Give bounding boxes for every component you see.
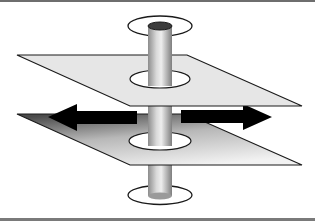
stacked-planes-diagram — [0, 0, 315, 221]
rod-cap — [148, 22, 172, 30]
rod-top-segment — [148, 27, 172, 86]
frame-bottom-border — [0, 218, 315, 221]
diagram-frame — [0, 0, 315, 221]
rod-bottom-end — [148, 193, 172, 200]
